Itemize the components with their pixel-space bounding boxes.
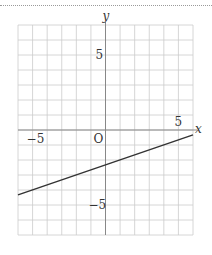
y-axis-label: y xyxy=(102,9,110,23)
y-tick-label: 5 xyxy=(96,48,104,62)
coordinate-plane: yxO−555−5 xyxy=(0,0,212,255)
axes xyxy=(18,22,197,235)
y-tick-label: −5 xyxy=(89,198,107,212)
x-tick-label: 5 xyxy=(174,115,182,129)
axis-labels: yxO−555−5 xyxy=(27,9,202,212)
x-axis-label: x xyxy=(195,122,202,136)
x-tick-label: −5 xyxy=(27,132,45,146)
origin-label: O xyxy=(94,132,104,146)
